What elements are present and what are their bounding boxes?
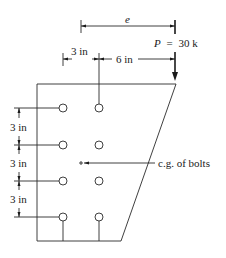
dim-label-3in: 3 in [71,45,88,57]
load-arrow [172,20,178,81]
dim-label-row1: 3 in [10,121,27,133]
eccentricity-label: e [125,13,130,25]
cg-label: c.g. of bolts [158,157,210,169]
bolt [95,141,103,149]
dim-label-row2: 3 in [10,157,27,169]
dim-label-6in: 6 in [116,53,133,65]
bolt [59,213,67,221]
bolt [95,104,103,112]
bolt [95,213,103,221]
dim-label-row3: 3 in [10,193,27,205]
bolt [59,141,67,149]
bolted-bracket-diagram: 3 in 6 in e P = 30 k 3 in 3 in 3 in [0,0,226,258]
cg-marker [79,161,155,165]
bolt [95,177,103,185]
load-label: P = 30 k [153,37,198,49]
bolt [59,177,67,185]
bolt [59,104,67,112]
